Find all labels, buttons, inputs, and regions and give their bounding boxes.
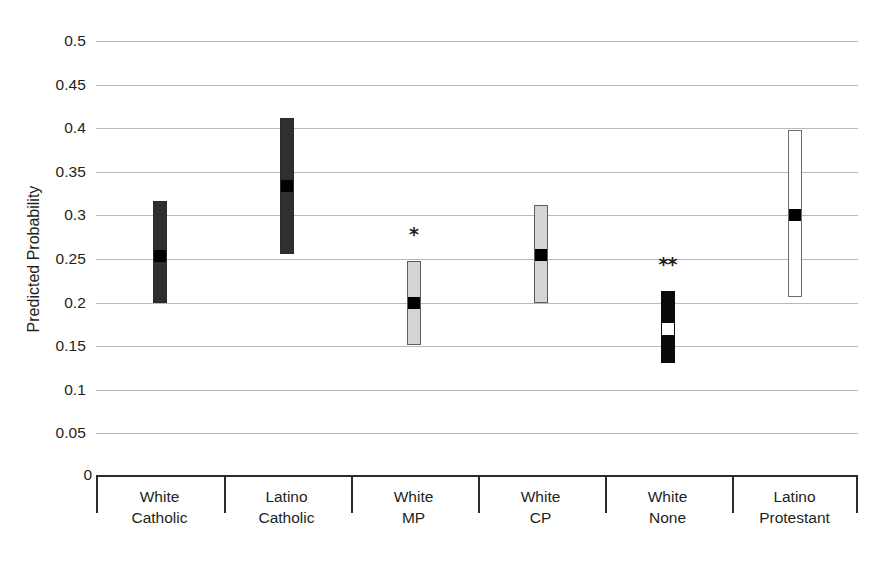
x-axis-tick-label: LatinoProtestant — [759, 486, 830, 528]
x-axis-tick-label-line: Catholic — [259, 507, 315, 528]
y-axis-tick-label: 0.1 — [26, 381, 86, 399]
x-axis-tick-label-line: White — [394, 486, 434, 507]
chart-root: Predicted Probability *** 0.50.450.40.35… — [0, 0, 875, 582]
x-axis-tick-label-line: Latino — [759, 486, 830, 507]
y-axis-tick-label: 0.3 — [26, 206, 86, 224]
point-estimate-marker — [662, 323, 674, 335]
point-estimate-marker — [408, 297, 420, 309]
y-axis-tick-label: 0.2 — [26, 294, 86, 312]
y-axis-tick-label: 0.25 — [26, 250, 86, 268]
y-axis-zero-label: 0 — [60, 466, 92, 484]
interval-bar — [153, 201, 167, 303]
x-axis-tick-label-line: CP — [521, 507, 561, 528]
interval-bar — [407, 261, 421, 346]
x-axis-cell-divider — [605, 477, 607, 513]
x-axis-tick-label: WhiteCP — [521, 486, 561, 528]
x-axis-tick-label-line: White — [648, 486, 688, 507]
y-axis-tick-label: 0.45 — [26, 76, 86, 94]
x-axis-tick-label-line: None — [648, 507, 688, 528]
point-estimate-marker — [154, 250, 166, 262]
x-axis-frame — [96, 475, 858, 513]
interval-bar — [661, 291, 675, 363]
significance-annotation: * — [409, 223, 418, 245]
y-axis-tick-label: 0.05 — [26, 424, 86, 442]
x-axis-tick-label: WhiteNone — [648, 486, 688, 528]
interval-bars-layer: *** — [96, 41, 858, 477]
interval-bar — [280, 118, 294, 254]
y-axis-tick-label: 0.4 — [26, 119, 86, 137]
x-axis-tick-label-line: Catholic — [132, 507, 188, 528]
x-axis-tick-label-line: White — [521, 486, 561, 507]
point-estimate-marker — [535, 249, 547, 261]
y-axis-tick-label: 0.5 — [26, 32, 86, 50]
x-axis-cell-divider — [732, 477, 734, 513]
x-axis-tick-label-line: Protestant — [759, 507, 830, 528]
y-axis-tick-label: 0.15 — [26, 337, 86, 355]
interval-bar — [534, 205, 548, 303]
plot-area: *** — [96, 41, 858, 477]
x-axis-tick-label-line: Latino — [259, 486, 315, 507]
x-axis-tick-label: LatinoCatholic — [259, 486, 315, 528]
x-axis-cell-divider — [351, 477, 353, 513]
interval-bar — [788, 130, 802, 297]
y-axis-tick-label: 0.35 — [26, 163, 86, 181]
significance-annotation: ** — [659, 253, 677, 275]
point-estimate-marker — [281, 180, 293, 192]
x-axis-tick-label: WhiteMP — [394, 486, 434, 528]
x-axis-tick-label-line: MP — [394, 507, 434, 528]
x-axis-cell-divider — [224, 477, 226, 513]
x-axis-tick-label: WhiteCatholic — [132, 486, 188, 528]
x-axis-tick-label-line: White — [132, 486, 188, 507]
x-axis-cell-divider — [478, 477, 480, 513]
point-estimate-marker — [789, 209, 801, 221]
